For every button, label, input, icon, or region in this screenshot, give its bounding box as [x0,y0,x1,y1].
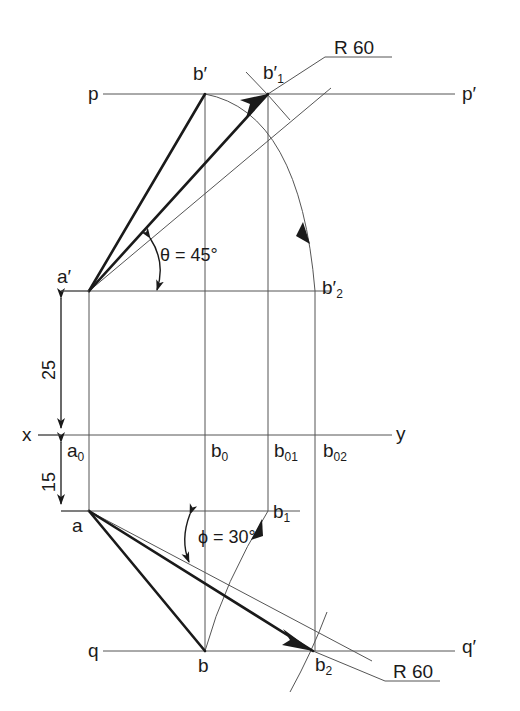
label-q-prime: q′ [462,637,476,656]
label-b2-top-sub: 2 [326,664,333,678]
label-a0: a0 [67,440,84,462]
label-p: p [88,84,99,103]
label-a0-base: a [67,440,78,461]
arc-front-rotation [205,94,315,291]
label-b02: b02 [323,440,347,462]
label-b2-top-base: b [315,654,326,675]
label-b02-sub: 02 [334,450,347,464]
label-dimension-15: 15 [40,472,58,492]
drawing-canvas: p p′ b′ b′1 R 60 a′ b′2 θ = 45° 25 15 x … [0,0,520,711]
label-b2-prime-base: b′ [322,277,336,298]
label-b0-base: b [211,440,222,461]
angle-arc-phi [185,514,190,562]
arrowhead-true-length-front [240,94,268,118]
label-b0-sub: 0 [222,450,229,464]
label-b2-prime-sub: 2 [336,287,343,301]
label-b01-sub: 01 [285,450,298,464]
label-b1-prime: b′1 [263,62,284,84]
label-dimension-25: 25 [40,360,58,380]
technical-drawing-svg [0,0,520,711]
label-q: q [88,641,99,660]
label-b1-top: b1 [273,501,290,523]
locus-arc-b2 [290,612,327,692]
label-a-prime: a′ [57,267,71,286]
label-b02-base: b [323,440,334,461]
arc-front-arrowhead [296,222,310,244]
label-b1-prime-base: b′ [263,62,277,83]
label-b-top: b [198,656,209,675]
angle-arc-theta [150,238,160,290]
label-b01: b01 [274,440,298,462]
label-radius-top: R 60 [334,38,374,57]
label-b-prime: b′ [193,64,207,83]
label-p-prime: p′ [462,84,476,103]
label-y-axis: y [396,424,406,443]
label-b2-prime: b′2 [322,277,343,299]
label-radius-bottom: R 60 [393,662,433,681]
label-b1-prime-sub: 1 [277,72,284,86]
label-angle-phi: ϕ = 30° [198,528,256,546]
label-b1-top-base: b [273,501,284,522]
arrowhead-true-length-top [282,629,313,651]
label-a0-sub: 0 [78,450,85,464]
label-angle-theta: θ = 45° [160,246,218,264]
label-b0: b0 [211,440,228,462]
label-a-top: a [72,516,83,535]
label-b01-base: b [274,440,285,461]
label-b2-top: b2 [315,654,332,676]
label-x-axis: x [22,425,32,444]
object-line-a-b [89,511,205,651]
label-b1-top-sub: 1 [284,511,291,525]
